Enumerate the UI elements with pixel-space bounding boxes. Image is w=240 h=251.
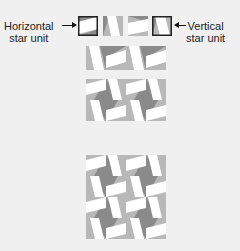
horizontal-label-line2: star unit — [4, 32, 54, 44]
vertical-star-unit — [103, 16, 123, 36]
vertical-label-line1: Vertical — [186, 20, 225, 32]
horizontal-label-line1: Horizontal — [4, 20, 54, 32]
star-block-2x4 — [86, 79, 166, 121]
horizontal-arrowhead — [72, 22, 77, 28]
star-row-1x4 — [86, 46, 166, 70]
horizontal-star-unit-2 — [128, 16, 148, 36]
vertical-star-unit-outlined — [152, 16, 172, 36]
star-block-4x4 — [86, 153, 166, 241]
horizontal-star-unit — [78, 16, 98, 36]
vertical-label: Vertical star unit — [186, 20, 225, 44]
vertical-arrow — [179, 25, 186, 26]
vertical-arrowhead — [174, 22, 179, 28]
vertical-label-line2: star unit — [186, 32, 225, 44]
horizontal-label: Horizontal star unit — [4, 20, 54, 44]
